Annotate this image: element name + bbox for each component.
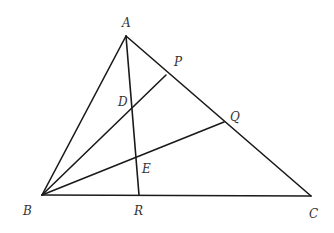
segment-AR	[126, 36, 139, 195]
label-Q: Q	[230, 111, 240, 123]
label-E: E	[142, 163, 151, 175]
segment-AB	[42, 36, 126, 195]
label-P: P	[174, 56, 182, 68]
label-R: R	[134, 205, 143, 217]
segment-CA	[126, 36, 311, 196]
label-B: B	[23, 205, 32, 217]
label-C: C	[309, 208, 318, 220]
segment-BP	[42, 75, 166, 195]
label-A: A	[122, 17, 131, 29]
segment-BQ	[42, 122, 224, 195]
segment-BC	[42, 195, 311, 196]
triangle-diagram	[0, 0, 334, 233]
label-D: D	[118, 96, 128, 108]
